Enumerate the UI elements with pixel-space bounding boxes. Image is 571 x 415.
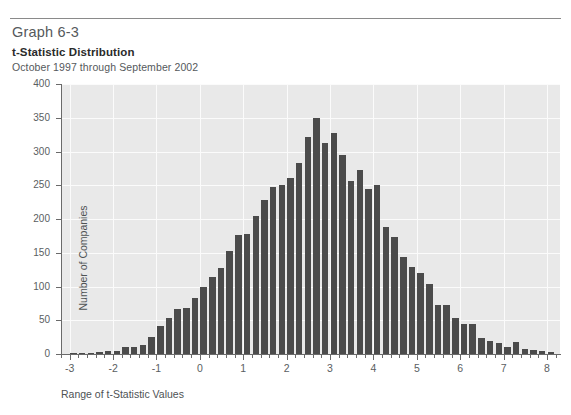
x-axis-tick-minor [304, 354, 305, 358]
x-axis-tick-label: 3 [315, 362, 345, 374]
x-axis-tick-label: 2 [272, 362, 302, 374]
x-axis-tick-major [70, 354, 71, 360]
x-axis-tick-minor [139, 354, 140, 358]
x-axis-tick-major [417, 354, 418, 360]
bar [331, 133, 337, 354]
x-axis-tick-minor [122, 354, 123, 358]
x-axis-tick-major [547, 354, 548, 360]
bar [122, 347, 128, 354]
bar [461, 324, 467, 354]
bar [157, 326, 163, 354]
bar [391, 237, 397, 354]
x-axis-tick-minor [252, 354, 253, 358]
x-axis-tick-minor [486, 354, 487, 358]
x-axis-tick-minor [399, 354, 400, 358]
y-axis-tick [56, 320, 61, 321]
x-axis-tick-minor [521, 354, 522, 358]
x-axis-tick-minor [347, 354, 348, 358]
bar [469, 324, 475, 354]
x-axis-tick-minor [78, 354, 79, 358]
x-axis-tick-minor [512, 354, 513, 358]
y-axis-line [61, 84, 62, 355]
y-axis-tick-label: 350 [10, 113, 50, 123]
bar [148, 337, 154, 354]
x-axis-tick-minor [408, 354, 409, 358]
bar [365, 189, 371, 354]
plot-area [61, 84, 560, 354]
x-axis-tick-label: 8 [532, 362, 562, 374]
x-axis-tick-minor [235, 354, 236, 358]
y-axis-tick [56, 118, 61, 119]
x-axis-tick-label: -1 [141, 362, 171, 374]
x-axis-tick-major [373, 354, 374, 360]
x-axis-tick-minor [130, 354, 131, 358]
y-axis-tick-label: 200 [10, 214, 50, 224]
bar [261, 200, 267, 354]
x-axis-tick-minor [339, 354, 340, 358]
bar [218, 268, 224, 354]
x-axis-tick-minor [365, 354, 366, 358]
bar [435, 305, 441, 354]
bar [244, 234, 250, 354]
bar [426, 284, 432, 354]
bar [313, 118, 319, 354]
x-axis-tick-label: 6 [445, 362, 475, 374]
bar [270, 187, 276, 354]
y-axis-tick [56, 219, 61, 220]
x-axis-tick-minor [182, 354, 183, 358]
x-axis-tick-label: 7 [489, 362, 519, 374]
x-axis-tick-minor [391, 354, 392, 358]
x-axis-tick-minor [96, 354, 97, 358]
bar [513, 342, 519, 354]
bar [192, 298, 198, 354]
y-axis-tick-label: 250 [10, 180, 50, 190]
x-axis-tick-minor [556, 354, 557, 358]
bar [478, 338, 484, 354]
x-axis-tick-label: -2 [98, 362, 128, 374]
bar [383, 227, 389, 354]
x-axis-tick-minor [278, 354, 279, 358]
x-axis-tick-minor [495, 354, 496, 358]
y-axis-tick-label: 100 [10, 282, 50, 292]
x-axis-tick-major [330, 354, 331, 360]
bar [226, 251, 232, 354]
y-axis-tick-label: 300 [10, 147, 50, 157]
x-axis-tick-minor [261, 354, 262, 358]
bar [296, 163, 302, 354]
x-axis-tick-label: -3 [55, 362, 85, 374]
bar [183, 308, 189, 354]
bar [400, 257, 406, 354]
bar [235, 235, 241, 354]
bar [409, 267, 415, 354]
x-axis-tick-minor [174, 354, 175, 358]
bar [487, 341, 493, 355]
bar [443, 305, 449, 354]
x-axis-tick-minor [452, 354, 453, 358]
x-axis-tick-minor [191, 354, 192, 358]
bar [140, 345, 146, 354]
y-axis-tick [56, 185, 61, 186]
bar [339, 155, 345, 354]
y-axis-tick [56, 84, 61, 85]
x-axis-tick-minor [321, 354, 322, 358]
bar [253, 216, 259, 354]
x-axis-tick-minor [443, 354, 444, 358]
x-axis-tick-minor [469, 354, 470, 358]
x-axis-tick-minor [313, 354, 314, 358]
bar [504, 347, 510, 354]
y-axis-tick [56, 287, 61, 288]
x-axis-tick-minor [295, 354, 296, 358]
x-axis-tick-minor [356, 354, 357, 358]
x-axis-tick-minor [148, 354, 149, 358]
x-axis-tick-major [460, 354, 461, 360]
x-axis-tick-minor [269, 354, 270, 358]
x-axis-tick-major [156, 354, 157, 360]
bar [174, 309, 180, 354]
bar [322, 143, 328, 354]
bar [374, 185, 380, 354]
x-axis-tick-minor [87, 354, 88, 358]
bar [357, 170, 363, 354]
y-axis-tick-label: 50 [10, 315, 50, 325]
x-axis-tick-minor [217, 354, 218, 358]
x-axis-title: Range of t-Statistic Values [61, 388, 261, 400]
